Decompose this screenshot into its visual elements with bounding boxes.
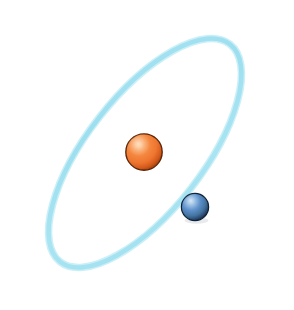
nucleus-group: [126, 134, 162, 170]
atom-orbit-diagram: Atom with single electron orbiting nucle…: [0, 0, 294, 310]
atom-diagram-canvas: Atom with single electron orbiting nucle…: [0, 0, 294, 310]
electron-highlight: [181, 193, 208, 220]
nucleus-highlight: [126, 134, 162, 170]
